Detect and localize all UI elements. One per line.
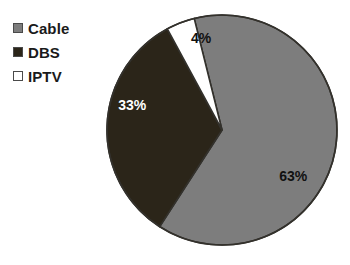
legend-label-dbs: DBS: [28, 45, 60, 60]
pie-chart-figure: Cable DBS IPTV 63% 33% 4%: [0, 0, 350, 265]
legend-label-cable: Cable: [28, 21, 69, 36]
pie-slices-group: [107, 15, 337, 245]
legend-swatch-dbs-icon: [13, 47, 23, 57]
legend-item-iptv[interactable]: IPTV: [13, 65, 69, 87]
chart-legend: Cable DBS IPTV: [13, 17, 69, 89]
legend-item-dbs[interactable]: DBS: [13, 41, 69, 63]
legend-swatch-cable-icon: [13, 23, 23, 33]
legend-item-cable[interactable]: Cable: [13, 17, 69, 39]
legend-swatch-iptv-icon: [13, 71, 23, 81]
legend-label-iptv: IPTV: [28, 69, 62, 84]
